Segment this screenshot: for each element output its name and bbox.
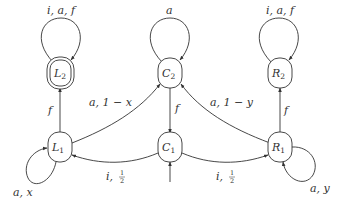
edge-R2-self-loop: i, a, f — [259, 4, 298, 62]
state-diagram: i, a, f a i, a, f f f f a, 1 − x a, 1 − … — [0, 0, 343, 202]
node-L1: L1 — [48, 132, 72, 162]
svg-text:i, a, f: i, a, f — [47, 4, 77, 17]
svg-text:i,: i, — [216, 170, 223, 183]
edge-L1-to-C2: a, 1 − x — [72, 84, 160, 143]
svg-text:a, 1 − x: a, 1 − x — [89, 96, 133, 109]
edge-L1-to-L2: f — [47, 88, 60, 133]
svg-text:2: 2 — [120, 177, 124, 185]
svg-text:i,: i, — [106, 170, 113, 183]
node-C1: C1 — [158, 132, 182, 162]
node-L2: L2 — [47, 57, 74, 89]
edge-R1-to-R2: f — [280, 88, 290, 133]
svg-text:i, a, f: i, a, f — [266, 4, 296, 17]
svg-text:f: f — [47, 104, 54, 117]
svg-text:a, x: a, x — [13, 186, 34, 199]
edge-C1-to-R1: i, 1 2 — [182, 153, 268, 185]
svg-text:1: 1 — [120, 169, 124, 177]
edge-R1-to-C2: a, 1 − y — [181, 84, 270, 143]
edge-C2-self-loop: a — [150, 4, 189, 62]
svg-text:f: f — [174, 102, 181, 115]
svg-text:f: f — [283, 104, 290, 117]
node-C2: C2 — [158, 58, 182, 88]
svg-text:1: 1 — [230, 169, 234, 177]
svg-text:2: 2 — [230, 177, 234, 185]
edge-L2-self-loop: i, a, f — [41, 4, 80, 62]
edge-C1-to-L1: i, 1 2 — [72, 153, 158, 185]
svg-text:a, 1 − y: a, 1 − y — [210, 96, 254, 109]
svg-text:a, y: a, y — [310, 182, 331, 195]
svg-text:a: a — [166, 4, 173, 17]
node-R2: R2 — [268, 58, 292, 88]
node-R1: R1 — [268, 132, 292, 162]
edge-C2-to-C1: f — [170, 87, 181, 133]
